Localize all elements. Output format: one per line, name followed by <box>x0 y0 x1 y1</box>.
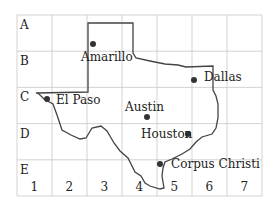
city-label-dallas: Dallas <box>204 71 242 83</box>
col-label-2: 2 <box>66 181 74 193</box>
city-dot-austin <box>144 114 150 120</box>
row-label-A: A <box>20 19 29 31</box>
city-label-amarillo: Amarillo <box>81 51 133 63</box>
col-label-4: 4 <box>136 181 144 193</box>
row-label-E: E <box>20 164 29 176</box>
city-dot-corpus-christi <box>157 161 163 167</box>
city-dot-dallas <box>191 77 197 83</box>
city-dot-amarillo <box>90 41 96 47</box>
row-label-D: D <box>20 128 30 140</box>
col-label-6: 6 <box>206 181 214 193</box>
city-label-corpus-christi: Corpus Christi <box>171 158 260 170</box>
col-label-5: 5 <box>171 181 179 193</box>
city-label-austin: Austin <box>125 101 164 113</box>
col-label-3: 3 <box>101 181 109 193</box>
city-dot-el-paso <box>44 96 50 102</box>
col-label-7: 7 <box>241 181 249 193</box>
row-label-B: B <box>20 55 29 67</box>
city-label-houston: Houston <box>141 128 192 140</box>
city-label-el-paso: El Paso <box>56 94 100 106</box>
col-label-1: 1 <box>31 181 39 193</box>
row-label-C: C <box>20 91 29 103</box>
